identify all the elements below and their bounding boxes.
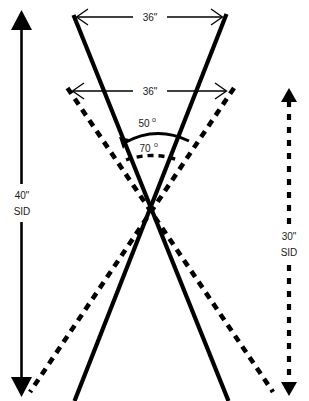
diagram-canvas: 36" 36" 50 o 70 o 40" <box>0 0 309 401</box>
right-sid-arrowhead-up-icon <box>281 88 297 102</box>
left-sid-caption-label: SID <box>14 206 31 217</box>
right-sid-distance-label: 30" <box>282 231 297 242</box>
top-field-width-label: 36" <box>143 12 158 23</box>
right-sid-arrowhead-down-icon <box>281 382 297 396</box>
right-sid-caption-label: SID <box>281 247 298 258</box>
dashed-angle-value-label: 70 <box>139 143 151 154</box>
left-sid-arrowhead-up-icon <box>11 10 32 30</box>
dashed-beam-angle-group: 70 o <box>126 141 178 160</box>
left-sid-distance-label: 40" <box>15 190 30 201</box>
solid-angle-degree-symbol: o <box>152 116 156 123</box>
solid-angle-value-label: 50 <box>138 118 150 129</box>
right-sid-dimension: 30" SID <box>281 88 298 396</box>
left-sid-arrowhead-down-icon <box>11 377 32 397</box>
left-sid-dimension: 40" SID <box>11 10 32 397</box>
beam-divergence-diagram: 36" 36" 50 o 70 o 40" <box>0 0 309 401</box>
dashed-angle-degree-symbol: o <box>154 141 158 148</box>
dashed-angle-arc <box>126 156 178 161</box>
mid-field-width-label: 36" <box>143 86 158 97</box>
top-field-width-dimension: 36" <box>77 9 223 25</box>
mid-field-width-dimension: 36" <box>73 83 227 99</box>
dashed-beam-ray-right <box>30 88 234 392</box>
